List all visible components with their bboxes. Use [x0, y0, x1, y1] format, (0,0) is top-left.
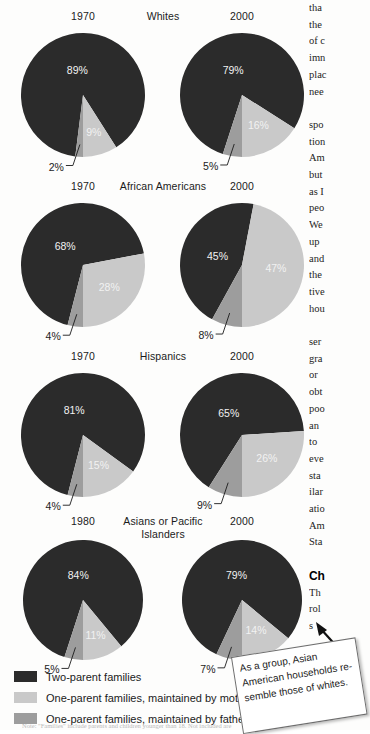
- body-text-line: as I: [309, 184, 370, 201]
- body-text-line: but: [309, 167, 370, 184]
- body-text-line: rol: [309, 601, 370, 618]
- body-text-line: eve: [309, 451, 370, 468]
- slice-value-label: 9%: [86, 126, 101, 138]
- body-text-line: nee: [309, 84, 370, 101]
- body-text-line: the: [309, 267, 370, 284]
- body-text-line: imn: [309, 50, 370, 67]
- slice-value-label: 26%: [256, 452, 277, 464]
- body-text-line: Am: [309, 518, 370, 535]
- body-text-line: ilar: [309, 484, 370, 501]
- body-text-line: and: [309, 251, 370, 268]
- body-text-line: the: [309, 17, 370, 34]
- slice-value-label: 79%: [223, 64, 244, 76]
- body-text-line: tha: [309, 0, 370, 17]
- body-text-line: of c: [309, 33, 370, 50]
- body-text-line: atio: [309, 501, 370, 518]
- body-text-line: plac: [309, 67, 370, 84]
- legend-label-two-parent: Two-parent families: [46, 671, 141, 683]
- legend-swatch-two-parent: [14, 671, 37, 682]
- slice-value-label: 47%: [265, 262, 286, 274]
- body-text-line: obt: [309, 384, 370, 401]
- body-text-line: spo: [309, 117, 370, 134]
- slice-value-label: 28%: [99, 281, 120, 293]
- pie-chart-figure: Whites197089%9%2%200079%16%5%African Ame…: [0, 0, 308, 730]
- legend-swatch-mother: [14, 692, 37, 703]
- section-heading: Ch: [309, 568, 370, 585]
- legend-label-mother: One-parent families, maintained by mothe…: [46, 692, 254, 704]
- body-text-line: poo: [309, 401, 370, 418]
- body-text-line: peo: [309, 200, 370, 217]
- slice-value-label: 15%: [88, 459, 109, 471]
- body-text-line: tion: [309, 134, 370, 151]
- body-text-line: hou: [309, 301, 370, 318]
- body-text-line: gra: [309, 351, 370, 368]
- body-text-line: sta: [309, 468, 370, 485]
- body-text-line: tive: [309, 284, 370, 301]
- body-text-line: We: [309, 217, 370, 234]
- slice-value-label: 79%: [226, 569, 247, 581]
- body-text-line: to: [309, 434, 370, 451]
- slice-value-label: 11%: [85, 629, 105, 641]
- body-text-line: ser: [309, 334, 370, 351]
- body-text-line: up: [309, 234, 370, 251]
- slice-value-label: 65%: [218, 407, 239, 419]
- slice-value-label: 89%: [67, 64, 88, 76]
- body-text-line: or: [309, 367, 370, 384]
- slice-value-label: 14%: [246, 624, 267, 636]
- body-text-line: an: [309, 418, 370, 435]
- slice-value-label: 45%: [207, 250, 228, 262]
- body-text-line: Am: [309, 150, 370, 167]
- body-text-line: Th: [309, 585, 370, 602]
- slice-value-label: 68%: [55, 240, 76, 252]
- body-text-line: Sta: [309, 534, 370, 551]
- slice-value-label: 81%: [64, 404, 85, 416]
- slice-value-label: 16%: [248, 119, 269, 131]
- slice-value-label: 84%: [68, 569, 89, 581]
